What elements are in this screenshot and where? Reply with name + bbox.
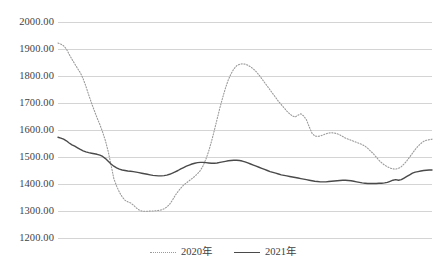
legend-entry-2021[interactable]: 2021年 — [234, 246, 296, 258]
plot-area — [58, 22, 432, 238]
series-layer — [58, 22, 432, 238]
legend-swatch-dotted-icon — [150, 252, 176, 253]
legend-label-2020: 2020年 — [181, 246, 212, 258]
y-axis-tick-label: 1800.00 — [0, 70, 54, 81]
y-axis-tick-label: 1600.00 — [0, 124, 54, 135]
legend-entry-2020[interactable]: 2020年 — [150, 246, 212, 258]
legend-label-2021: 2021年 — [265, 246, 296, 258]
y-axis: 2000.001900.001800.001700.001600.001500.… — [0, 0, 54, 272]
y-axis-tick-label: 1700.00 — [0, 97, 54, 108]
chart-legend: 2020年 2021年 — [0, 246, 446, 258]
series-line-2020年 — [58, 43, 432, 211]
line-chart: 2000.001900.001800.001700.001600.001500.… — [0, 0, 446, 272]
y-axis-tick-label: 1900.00 — [0, 43, 54, 54]
gridline — [58, 238, 432, 239]
y-axis-tick-label: 1400.00 — [0, 178, 54, 189]
y-axis-tick-label: 1200.00 — [0, 232, 54, 243]
y-axis-tick-label: 1500.00 — [0, 151, 54, 162]
series-line-2021年 — [58, 137, 432, 183]
y-axis-tick-label: 2000.00 — [0, 16, 54, 27]
legend-swatch-solid-icon — [234, 252, 260, 253]
y-axis-tick-label: 1300.00 — [0, 205, 54, 216]
